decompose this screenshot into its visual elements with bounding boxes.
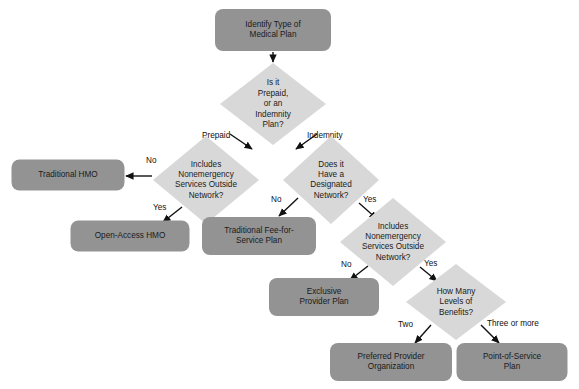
edge-label: Two [398, 320, 413, 329]
edge-label: Yes [424, 259, 437, 268]
node-label-line: Nonemergency [178, 170, 234, 179]
flow-connector: No [271, 195, 298, 216]
edge-label: Yes [363, 195, 376, 204]
terminal-node: ExclusiveProvider Plan [269, 278, 379, 316]
node-label-line: Services Outside [362, 242, 424, 251]
node-label-line: Identify Type of [245, 20, 301, 29]
node-label-line: Point-of-Service [483, 352, 542, 361]
edge-label: No [271, 195, 282, 204]
edge-label: Three or more [487, 319, 539, 328]
node-label-line: Indemnity [255, 110, 291, 119]
node-label-line: Provider Plan [299, 297, 349, 306]
connector-line [230, 134, 252, 149]
node-label-line: Plan? [263, 120, 284, 129]
node-label-line: Levels of [440, 297, 473, 306]
node-label-line: Service Plan [236, 236, 282, 245]
node-label-line: Traditional Fee-for- [224, 226, 294, 235]
node-label-line: or an [264, 99, 283, 108]
decision-node: How ManyLevels ofBenefits? [406, 264, 506, 340]
edge-label: Yes [153, 203, 166, 212]
flow-connector: Two [398, 320, 431, 343]
node-label-line: Organization [368, 362, 415, 371]
node-label-line: Network? [189, 191, 224, 200]
node-label-line: Designated [310, 180, 352, 189]
terminal-node: Traditional HMO [12, 160, 125, 191]
terminal-node: Preferred ProviderOrganization [330, 343, 452, 381]
node-label-line: Includes [378, 222, 409, 231]
connector-line [350, 266, 368, 280]
connector-line [420, 267, 437, 281]
terminal-node: Identify Type ofMedical Plan [215, 9, 331, 51]
node-label-line: Prepaid, [258, 89, 289, 98]
node-label-line: How Many [437, 287, 477, 296]
flow-connector: Yes [153, 203, 182, 222]
node-label-line: Network? [376, 253, 411, 262]
connector-line [415, 325, 431, 343]
node-label-line: Medical Plan [250, 30, 297, 39]
node-label-line: Includes [191, 160, 222, 169]
decision-node: IncludesNonemergencyServices OutsideNetw… [153, 136, 259, 224]
connector-line [279, 198, 298, 216]
terminal-node: Open-Access HMO [71, 221, 190, 252]
node-label-line: Traditional HMO [38, 170, 97, 179]
decision-node: Does itHave aDesignatedNetwork? [283, 136, 379, 224]
node-label-line: Have a [318, 170, 344, 179]
node-label-line: Services Outside [175, 180, 237, 189]
edge-label: No [146, 156, 157, 165]
node-label-line: Nonemergency [365, 232, 421, 241]
edge-label: Indemnity [307, 131, 343, 140]
node-label-line: Exclusive [307, 287, 342, 296]
terminal-node: Point-of-ServicePlan [457, 343, 568, 381]
nodes-layer: Identify Type ofMedical PlanIs itPrepaid… [12, 9, 568, 381]
node-label-line: Does it [318, 160, 344, 169]
node-label-line: Is it [267, 78, 280, 87]
decision-node: IncludesNonemergencyServices OutsideNetw… [340, 198, 446, 286]
edge-label: No [341, 260, 352, 269]
flow-connector: Three or more [481, 319, 539, 343]
flowchart-canvas: PrepaidIndemnityNoYesNoYesNoYesTwoThree … [0, 0, 579, 389]
node-label-line: Network? [314, 191, 349, 200]
terminal-node: Traditional Fee-for-Service Plan [202, 217, 316, 255]
flow-connector: No [341, 260, 368, 280]
flow-connector: Yes [420, 259, 437, 281]
flowchart-diagram: PrepaidIndemnityNoYesNoYesNoYesTwoThree … [0, 0, 579, 389]
node-label-line: Preferred Provider [358, 352, 425, 361]
node-label-line: Plan [504, 362, 521, 371]
node-label-line: Benefits? [439, 308, 474, 317]
flow-connector: No [126, 156, 157, 176]
node-label-line: Open-Access HMO [95, 231, 166, 240]
